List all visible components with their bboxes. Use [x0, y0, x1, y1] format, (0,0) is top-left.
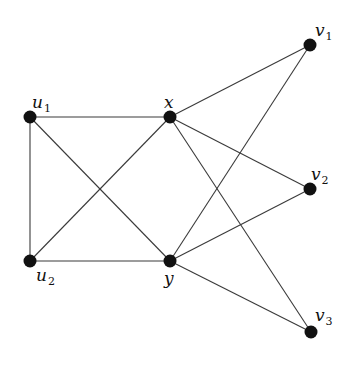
node-u2: [24, 255, 37, 268]
node-u1: [24, 111, 37, 124]
edge-y-v1: [170, 45, 310, 261]
node-y: [164, 255, 177, 268]
edge-y-v2: [170, 189, 310, 261]
edge-x-v1: [170, 45, 310, 117]
node-label-u2: u2: [36, 265, 55, 288]
nodes-layer: [24, 39, 318, 339]
node-x: [164, 111, 177, 124]
node-label-u1: u1: [32, 92, 51, 115]
graph-diagram: u1u2xyv1v2v3: [0, 0, 352, 366]
node-v1: [304, 39, 317, 52]
edges-layer: [30, 45, 311, 332]
node-label-v3: v3: [315, 305, 333, 328]
labels-layer: u1u2xyv1v2v3: [32, 20, 333, 328]
node-label-v1: v1: [315, 20, 333, 43]
edge-y-v3: [170, 261, 311, 332]
node-label-y: y: [163, 268, 174, 288]
node-label-x: x: [164, 92, 174, 112]
node-v3: [305, 326, 318, 339]
node-v2: [304, 183, 317, 196]
node-label-v2: v2: [311, 164, 329, 187]
